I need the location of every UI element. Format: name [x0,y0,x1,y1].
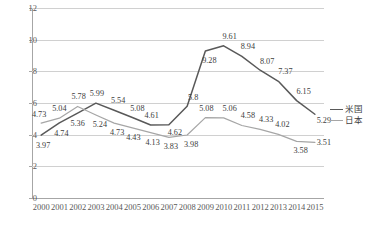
x-axis-tick-label: 2011 [234,203,251,212]
y-axis-tick-label: 2 [13,162,37,171]
y-axis-tick-label: 10 [13,36,37,45]
data-point-label: 5.06 [222,105,236,113]
data-point-label: 5.08 [199,104,213,112]
data-point-label: 4.43 [126,134,140,142]
legend-label-japan: 日本 [345,116,363,125]
data-point-label: 8.07 [260,58,274,66]
x-axis-tick-label: 2001 [51,203,68,212]
y-axis-tick-label: 8 [13,67,37,76]
x-axis-labels: 2000200120022003200420052006200720082009… [32,203,324,217]
data-point-label: 4.74 [54,130,68,138]
data-point-label: 8.94 [241,43,255,51]
x-axis-tick-label: 2003 [87,203,104,212]
data-point-label: 4.58 [241,112,255,120]
x-axis-tick-label: 2008 [179,203,196,212]
data-point-label: 5.54 [111,97,125,105]
y-axis-tick-label: 12 [13,4,37,13]
data-point-label: 4.61 [144,112,158,120]
y-axis-tick-label: 6 [13,99,37,108]
gridline [32,198,324,199]
data-point-label: 5.78 [71,93,85,101]
data-point-label: 5.8 [188,94,198,102]
x-axis-tick-label: 2002 [69,203,86,212]
data-point-label: 3.98 [184,141,198,149]
x-axis-tick-label: 2000 [33,203,50,212]
plot-area: 3.974.745.365.995.545.084.614.625.89.289… [32,8,324,198]
data-point-label: 6.15 [296,88,310,96]
x-axis-tick-label: 2013 [270,203,287,212]
chart-container: 3.974.745.365.995.545.084.614.625.89.289… [0,0,377,228]
x-axis-tick-label: 2012 [252,203,269,212]
x-axis-tick-label: 2014 [288,203,305,212]
data-point-label: 5.24 [93,121,107,129]
data-point-label: 4.13 [145,138,159,146]
data-point-label: 5.04 [52,105,66,113]
legend-line-icon-us [330,109,343,110]
x-axis-tick-label: 2009 [197,203,214,212]
legend-label-us: 米国 [345,105,363,114]
data-point-label: 3.51 [317,139,331,147]
x-axis-tick-label: 2004 [106,203,123,212]
data-point-label: 4.02 [275,121,289,129]
x-axis-tick-label: 2010 [215,203,232,212]
data-point-label: 4.62 [168,129,182,137]
data-point-label: 5.29 [317,117,331,125]
x-axis-tick-label: 2005 [124,203,141,212]
data-point-label: 3.58 [293,147,307,155]
data-point-label: 4.33 [259,116,273,124]
data-point-label: 7.37 [278,68,292,76]
legend-item-us[interactable]: 米国 [330,104,363,115]
x-axis-tick-label: 2015 [306,203,323,212]
chart-legend: 米国 日本 [330,104,363,126]
legend-item-japan[interactable]: 日本 [330,115,363,126]
x-axis-tick-label: 2006 [142,203,159,212]
x-axis-tick-label: 2007 [160,203,177,212]
data-point-label: 5.08 [130,104,144,112]
data-point-label: 4.73 [110,129,124,137]
data-point-label: 4.73 [32,111,46,119]
series-lines [32,8,324,198]
data-point-label: 5.99 [90,90,104,98]
legend-line-icon-japan [330,120,343,121]
y-axis-tick-label: 4 [13,131,37,140]
data-point-label: 9.28 [202,57,216,65]
data-point-label: 3.83 [164,143,178,151]
data-point-label: 9.61 [222,33,236,41]
data-point-label: 5.36 [70,120,84,128]
data-point-label: 3.97 [36,142,50,150]
